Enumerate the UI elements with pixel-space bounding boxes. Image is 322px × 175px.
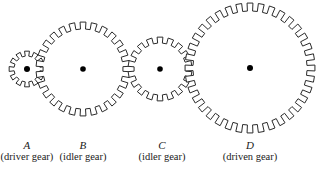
gear-label-layer: A(driver gear)B(idler gear)C(idler gear)…	[0, 0, 322, 175]
gear-train-figure: A(driver gear)B(idler gear)C(idler gear)…	[0, 0, 322, 175]
gear-d-label: D(driven gear)	[180, 139, 320, 163]
gear-d-role: (driven gear)	[180, 151, 320, 163]
gear-d-letter: D	[180, 139, 320, 151]
